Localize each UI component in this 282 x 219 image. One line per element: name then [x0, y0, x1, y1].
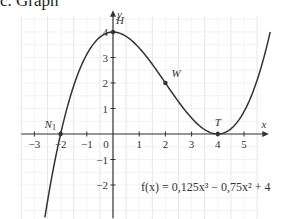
- point-label-N1: N1: [44, 118, 56, 132]
- y-tick-label: 4: [103, 26, 109, 38]
- x-tick-label: −3: [29, 138, 41, 150]
- point-label-H: H: [115, 14, 125, 26]
- y-tick-label: 2: [103, 77, 109, 89]
- function-graph: xy −3−2−1012345−2−11234 N1HWT f(x) = 0,1…: [0, 0, 282, 219]
- point-H: [111, 30, 115, 34]
- function-formula: f(x) = 0,125x³ − 0,75x² + 4: [141, 180, 271, 194]
- x-tick-label: 2: [163, 138, 169, 150]
- point-W: [163, 81, 167, 85]
- y-tick-label: 1: [103, 103, 109, 115]
- y-tick-label: −2: [96, 179, 108, 191]
- x-tick-label: 1: [136, 138, 142, 150]
- x-tick-label: 4: [215, 138, 221, 150]
- point-label-W: W: [171, 67, 181, 79]
- x-axis-arrow-icon: [262, 131, 269, 137]
- x-tick-label: 0: [103, 138, 109, 150]
- point-label-T: T: [215, 116, 222, 128]
- x-tick-label: 5: [241, 138, 247, 150]
- point-T: [216, 132, 220, 136]
- y-tick-label: 3: [103, 52, 109, 64]
- point-N1: [58, 132, 62, 136]
- x-tick-label: −1: [81, 138, 93, 150]
- y-tick-label: −1: [96, 154, 108, 166]
- x-tick-label: 3: [189, 138, 195, 150]
- x-axis-label: x: [261, 118, 267, 130]
- x-tick-label: −2: [55, 138, 67, 150]
